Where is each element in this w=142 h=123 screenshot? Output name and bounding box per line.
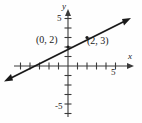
point-label-second: (2, 3)	[87, 36, 109, 46]
y-axis-label: y	[62, 2, 66, 11]
graph-figure: (0, 2) (2, 3) y x 5 -5 5	[0, 0, 142, 123]
coordinate-plane-svg	[0, 0, 142, 123]
line-arrow-left-icon	[4, 74, 13, 82]
y-tick-label-minus-5: -5	[55, 102, 63, 111]
x-axis-label: x	[128, 52, 132, 61]
point-label-y-intercept: (0, 2)	[36, 35, 58, 45]
point-marker-0-2	[66, 45, 69, 48]
line-arrow-right-icon	[122, 18, 131, 26]
y-tick-label-5: 5	[57, 14, 62, 23]
x-tick-label-5: 5	[111, 68, 116, 77]
x-axis-arrow-icon	[127, 63, 134, 69]
